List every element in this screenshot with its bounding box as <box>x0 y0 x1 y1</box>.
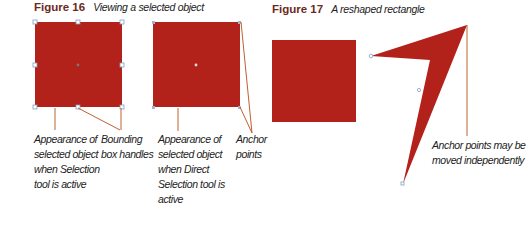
label-selection-tool: Appearance of selected object when Selec… <box>34 132 100 192</box>
label-anchor-points: Anchor points <box>236 132 267 162</box>
label-direct-selection: Appearance of selected object when Direc… <box>158 132 225 207</box>
label-moved-independently: Anchor points may be moved independently <box>432 138 526 168</box>
selected-square-direct <box>152 21 241 109</box>
selected-square-selection <box>33 20 124 109</box>
rectangle <box>272 40 356 122</box>
label-bounding-box-handles: Bounding box handles <box>101 132 153 162</box>
